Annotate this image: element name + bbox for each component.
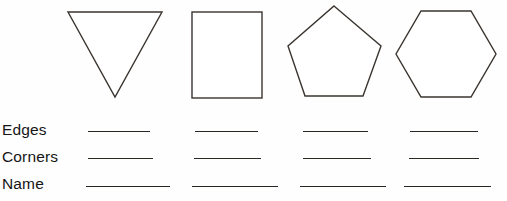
triangle-icon: [0, 0, 180, 110]
answer-rows: Edges Corners Name: [0, 110, 507, 201]
hexagon-shape: [396, 11, 496, 97]
blank-name-rectangle[interactable]: [192, 186, 278, 187]
blank-edges-pentagon[interactable]: [303, 131, 368, 132]
shape-cell-triangle: [0, 0, 180, 110]
shape-cell-pentagon: [285, 0, 390, 110]
blank-edges-hexagon[interactable]: [410, 131, 478, 132]
answer-row-corners: Corners: [0, 137, 507, 164]
rectangle-shape: [192, 12, 262, 98]
blank-corners-rectangle[interactable]: [194, 158, 261, 159]
answer-row-edges: Edges: [0, 110, 507, 137]
blank-name-triangle[interactable]: [86, 186, 170, 187]
triangle-shape: [68, 12, 162, 97]
blank-edges-rectangle[interactable]: [195, 131, 258, 132]
hexagon-icon: [390, 0, 507, 110]
shapes-row: [0, 0, 507, 110]
pentagon-shape: [288, 6, 381, 96]
blank-corners-hexagon[interactable]: [409, 158, 479, 159]
shape-cell-rectangle: [180, 0, 285, 110]
row-label-name: Name: [2, 176, 44, 192]
blank-corners-pentagon[interactable]: [303, 158, 371, 159]
blank-name-pentagon[interactable]: [300, 186, 386, 187]
row-label-edges: Edges: [2, 122, 47, 138]
worksheet: Edges Corners Name: [0, 0, 507, 201]
pentagon-icon: [285, 0, 390, 110]
row-label-corners: Corners: [2, 149, 58, 165]
blank-edges-triangle[interactable]: [88, 131, 150, 132]
rectangle-icon: [180, 0, 285, 110]
blank-corners-triangle[interactable]: [88, 158, 153, 159]
blank-name-hexagon[interactable]: [404, 186, 491, 187]
shape-cell-hexagon: [390, 0, 507, 110]
